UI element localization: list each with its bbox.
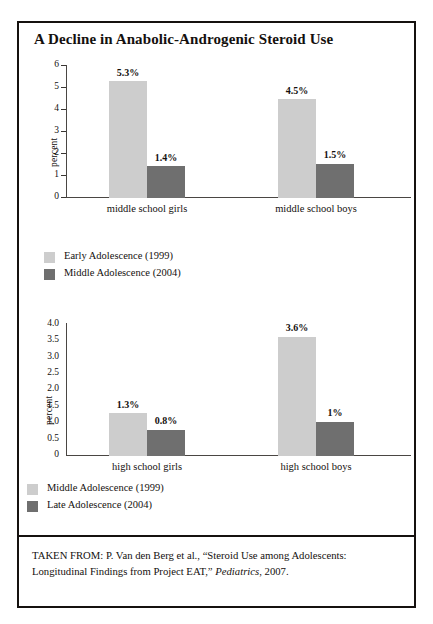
bar-label-hs-boys-middle: 3.6%: [268, 322, 326, 333]
legend-item-early-adolescence-1999: Early Adolescence (1999): [44, 250, 344, 265]
legend-label: Late Adolescence (2004): [47, 499, 152, 510]
source-suffix: , 2007.: [259, 565, 288, 577]
source-divider: [19, 535, 414, 537]
page-title: A Decline in Anabolic-Androgenic Steroid…: [34, 31, 333, 48]
legend-item-middle-adolescence-2004: Middle Adolescence (2004): [44, 267, 344, 282]
bar-girls-middle: [147, 166, 185, 198]
y-tick-bottom-6: 3.0: [35, 351, 59, 361]
bar-hs-boys-middle: [278, 337, 316, 456]
category-label-middle-school-boys: middle school boys: [236, 203, 396, 214]
y-axis-line-bottom: [66, 323, 67, 456]
source-note: TAKEN FROM: P. Van den Berg et al., “Ste…: [32, 547, 402, 579]
legend-item-middle-adolescence-1999: Middle Adolescence (1999): [27, 482, 347, 497]
y-tick-top-2: 2: [41, 147, 59, 157]
y-tick-bottom-8: 4.0: [35, 318, 59, 328]
y-tick-bottom-2: 1.0: [35, 416, 59, 426]
bar-hs-girls-late: [147, 430, 185, 456]
y-tick-bottom-4: 2.0: [35, 383, 59, 393]
y-tick-top-5: 5: [41, 81, 59, 91]
source-journal: Pediatrics: [215, 565, 259, 577]
bar-label-girls-early: 5.3%: [99, 67, 157, 78]
chart-middle-school: percent 0 1 2 3 4 5 6 5.3% 1.4%: [19, 57, 418, 227]
legend-swatch-light-icon: [44, 252, 55, 263]
y-tick-top-4: 4: [41, 103, 59, 113]
legend-item-late-adolescence-2004: Late Adolescence (2004): [27, 499, 347, 514]
bar-girls-early: [109, 81, 147, 198]
bar-label-hs-girls-middle: 1.3%: [99, 399, 157, 410]
y-tick-bottom-5: 2.5: [35, 367, 59, 377]
y-tick-bottom-3: 1.5: [35, 400, 59, 410]
bar-hs-boys-late: [316, 422, 354, 456]
bar-label-hs-girls-late: 0.8%: [137, 415, 195, 426]
y-tick-top-3: 3: [41, 125, 59, 135]
y-tick-bottom-0: 0: [35, 449, 59, 459]
bar-label-boys-early: 4.5%: [268, 85, 326, 96]
y-tick-bottom-1: 0.5: [35, 433, 59, 443]
bar-label-hs-boys-late: 1%: [306, 407, 364, 418]
chart-high-school: percent 0 0.5 1.0 1.5 2.0 2.5 3.0 3.5 4.…: [19, 315, 418, 485]
y-axis-line-top: [66, 65, 67, 198]
bar-label-boys-middle: 1.5%: [306, 149, 364, 160]
y-tick-top-0: 0: [41, 191, 59, 201]
category-label-high-school-girls: high school girls: [67, 461, 227, 472]
category-label-middle-school-girls: middle school girls: [67, 203, 227, 214]
legend-middle-school: Early Adolescence (1999) Middle Adolesce…: [44, 250, 344, 284]
bar-boys-middle: [316, 164, 354, 198]
legend-swatch-dark-icon: [44, 269, 55, 280]
figure-frame: A Decline in Anabolic-Androgenic Steroid…: [17, 21, 416, 608]
legend-swatch-light-icon: [27, 484, 38, 495]
legend-label: Middle Adolescence (2004): [64, 267, 181, 278]
category-label-high-school-boys: high school boys: [236, 461, 396, 472]
y-tick-bottom-7: 3.5: [35, 334, 59, 344]
bar-label-girls-middle: 1.4%: [137, 152, 195, 163]
y-tick-top-1: 1: [41, 169, 59, 179]
legend-swatch-dark-icon: [27, 501, 38, 512]
legend-label: Middle Adolescence (1999): [47, 482, 164, 493]
source-prefix: TAKEN FROM: P. Van den Berg et al., “Ste…: [32, 549, 347, 577]
legend-label: Early Adolescence (1999): [64, 250, 173, 261]
legend-high-school: Middle Adolescence (1999) Late Adolescen…: [27, 482, 347, 516]
y-tick-top-6: 6: [41, 59, 59, 69]
